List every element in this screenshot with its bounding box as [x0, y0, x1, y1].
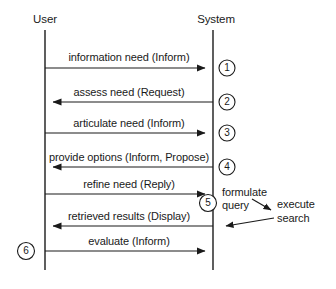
- actor-label-system: System: [197, 13, 235, 25]
- message-label-5: refine need (Reply): [83, 178, 175, 190]
- side-note-execute-line2: search: [277, 212, 309, 224]
- message-label-3: articulate need (Inform): [73, 117, 184, 129]
- step-marker-label-1: 1: [224, 63, 230, 73]
- message-label-6: evaluate (Inform): [88, 235, 169, 247]
- step-marker-label-6: 6: [23, 246, 29, 256]
- side-note-formulate-line1: formulate: [222, 186, 267, 198]
- step-marker-label-5: 5: [205, 198, 211, 208]
- actor-label-user: User: [33, 13, 57, 25]
- side-note-execute-line1: execute: [277, 198, 315, 210]
- step-marker-label-4: 4: [224, 162, 230, 172]
- step-marker-label-3: 3: [224, 128, 230, 138]
- side-arrow-formulate-to-execute: [252, 199, 271, 210]
- step-marker-label-2: 2: [224, 97, 230, 107]
- side-note-formulate-line2: query: [222, 199, 249, 211]
- message-label-retrieved-results: retrieved results (Display): [68, 210, 190, 222]
- message-label-4: provide options (Inform, Propose): [49, 151, 209, 163]
- message-label-2: assess need (Request): [73, 86, 184, 98]
- message-label-1: information need (Inform): [69, 51, 190, 63]
- sequence-diagram: User System information need (Inform) as…: [0, 0, 336, 289]
- side-arrow-execute-to-system: [226, 218, 274, 226]
